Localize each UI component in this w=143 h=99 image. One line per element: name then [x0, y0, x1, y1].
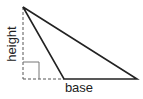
height-label: height [4, 26, 19, 62]
triangle [23, 7, 137, 79]
base-label: base [65, 80, 93, 95]
triangle-diagram: height base [0, 0, 143, 99]
right-angle-marker [23, 62, 39, 79]
